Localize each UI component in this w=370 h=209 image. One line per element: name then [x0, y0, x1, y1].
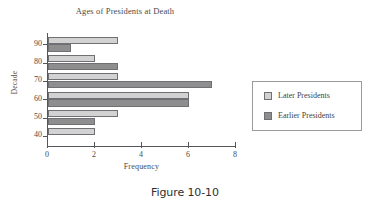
- legend-item-later: Later Presidents: [264, 91, 330, 100]
- legend-item-earlier: Earlier Presidents: [264, 111, 335, 120]
- bar-later-90: [48, 37, 119, 44]
- bar-later-80: [48, 55, 95, 62]
- y-tick-60: [43, 99, 48, 100]
- bar-earlier-90: [48, 44, 72, 51]
- bar-group-decade-90: [48, 35, 236, 53]
- y-tick-90: [43, 44, 48, 45]
- y-tick-70: [43, 81, 48, 82]
- bar-group-decade-80: [48, 53, 236, 71]
- x-tick-4: [141, 142, 142, 148]
- y-tick-label-50: 50: [20, 112, 42, 121]
- x-tick-label-4: 4: [131, 150, 151, 159]
- chart-legend: Later Presidents Earlier Presidents: [252, 81, 362, 131]
- chart-title: Ages of Presidents at Death: [0, 6, 250, 16]
- y-tick-label-80: 80: [20, 57, 42, 66]
- legend-label-earlier: Earlier Presidents: [278, 111, 335, 120]
- x-tick-6: [188, 142, 189, 148]
- x-tick-0: [47, 142, 48, 148]
- figure-caption: Figure 10-10: [0, 186, 370, 199]
- bar-group-decade-50: [48, 108, 236, 126]
- x-tick-label-6: 6: [178, 150, 198, 159]
- y-tick-80: [43, 63, 48, 64]
- y-tick-40: [43, 136, 48, 137]
- y-tick-label-70: 70: [20, 75, 42, 84]
- figure-container: Ages of Presidents at Death Decade 40506…: [0, 0, 370, 209]
- legend-label-later: Later Presidents: [278, 91, 330, 100]
- y-tick-label-40: 40: [20, 130, 42, 139]
- bar-group-decade-70: [48, 72, 236, 90]
- bar-later-60: [48, 92, 189, 99]
- plot-wrapper: Decade 405060708090 Frequency 02468: [0, 26, 250, 176]
- bar-later-50: [48, 110, 119, 117]
- bar-earlier-70: [48, 81, 213, 88]
- x-tick-label-8: 8: [225, 150, 245, 159]
- bar-earlier-60: [48, 99, 189, 106]
- x-tick-label-2: 2: [84, 150, 104, 159]
- bar-group-decade-60: [48, 90, 236, 108]
- plot-area: [48, 35, 236, 145]
- y-tick-label-90: 90: [20, 39, 42, 48]
- bar-earlier-50: [48, 118, 95, 125]
- bar-later-70: [48, 73, 119, 80]
- x-tick-label-0: 0: [37, 150, 57, 159]
- legend-swatch-earlier: [264, 112, 272, 120]
- x-axis-title: Frequency: [47, 162, 236, 171]
- bar-later-40: [48, 128, 95, 135]
- legend-swatch-later: [264, 92, 272, 100]
- y-tick-50: [43, 118, 48, 119]
- x-tick-8: [235, 142, 236, 148]
- y-tick-label-60: 60: [20, 94, 42, 103]
- x-tick-2: [94, 142, 95, 148]
- bar-earlier-80: [48, 63, 119, 70]
